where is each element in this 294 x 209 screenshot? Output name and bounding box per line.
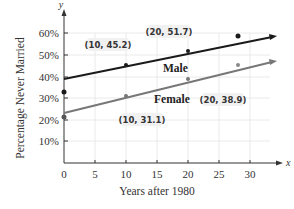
annotation-female-20: (20, 38.9)	[200, 95, 247, 105]
svg-text:25: 25	[214, 168, 226, 180]
svg-text:15: 15	[152, 168, 164, 180]
svg-text:30: 30	[245, 168, 257, 180]
x-axis-arrow-icon	[276, 161, 283, 166]
svg-text:10: 10	[121, 168, 133, 180]
svg-text:10%: 10%	[39, 135, 59, 147]
y-tick-labels: 60% 50% 40% 30% 20% 10%	[39, 27, 59, 147]
svg-text:40%: 40%	[39, 71, 59, 83]
female-line-arrow-icon	[269, 59, 277, 65]
svg-text:60%: 60%	[39, 27, 59, 39]
svg-text:50%: 50%	[39, 49, 59, 61]
y-axis-letter: y	[58, 0, 64, 10]
y-axis-title: Percentage Never Married	[14, 37, 27, 159]
svg-text:5: 5	[92, 168, 98, 180]
x-axis-letter: x	[285, 157, 291, 168]
x-tick-labels: 0 5 10 15 20 25 30	[61, 168, 256, 180]
svg-text:20%: 20%	[39, 114, 59, 126]
annotation-female-10: (10, 31.1)	[119, 115, 166, 125]
female-label: Female	[154, 93, 190, 105]
svg-text:20: 20	[183, 168, 195, 180]
annotation-male-20: (20, 51.7)	[146, 27, 193, 37]
male-line-arrow-icon	[269, 34, 277, 40]
annotations: (10, 45.2) (20, 51.7) (10, 31.1) (20, 38…	[85, 25, 247, 126]
svg-text:30%: 30%	[39, 92, 59, 104]
x-axis-title: Years after 1980	[119, 185, 195, 197]
y-axis-arrow-icon	[62, 9, 67, 16]
line-chart: y x 0 5 10 15 20 25 30 60% 50% 40% 30% 2…	[0, 0, 294, 209]
annotation-male-10: (10, 45.2)	[85, 40, 132, 50]
male-label: Male	[163, 62, 188, 74]
svg-text:0: 0	[61, 168, 67, 180]
